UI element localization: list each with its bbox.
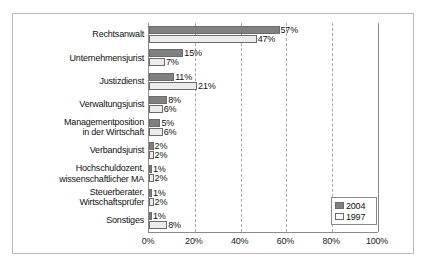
legend-entry-1997: 1997	[335, 211, 373, 222]
category-row: Justizdienst11%21%	[149, 69, 378, 92]
category-label: Managementpositionin der Wirtschaft	[64, 117, 144, 138]
legend-entry-2004: 2004	[335, 200, 373, 211]
bar-2004: 11%	[149, 73, 174, 81]
category-label: Unternehmensjurist	[70, 53, 144, 64]
category-row: Hochschuldozent,wissenschaftlicher MA1%2…	[149, 162, 378, 185]
bar-value-label: 2%	[155, 150, 168, 160]
category-label: Steuerberater,Wirtschaftsprüfer	[79, 187, 144, 208]
bar-1997: 21%	[149, 82, 197, 90]
category-label: Hochschuldozent,wissenschaftlicher MA	[59, 163, 144, 184]
category-label-line: Wirtschaftsprüfer	[79, 197, 144, 208]
bar-value-label: 57%	[281, 25, 298, 35]
category-label-line: in der Wirtschaft	[64, 127, 144, 138]
bar-value-label: 11%	[175, 72, 192, 82]
bar-value-label: 15%	[184, 48, 201, 58]
category-label-line: Justizdienst	[99, 76, 144, 87]
category-row: Unternehmensjurist15%7%	[149, 46, 378, 69]
bar-2004: 2%	[149, 142, 154, 150]
chart-legend: 2004 1997	[331, 197, 377, 225]
legend-swatch-1997	[335, 213, 344, 220]
bar-1997: 6%	[149, 105, 163, 113]
bar-1997: 7%	[149, 58, 165, 66]
bar-2004: 8%	[149, 96, 167, 104]
category-label-line: Verwaltungsjurist	[79, 99, 144, 110]
bar-value-label: 7%	[166, 57, 179, 67]
category-label-line: Rechtsanwalt	[92, 29, 144, 40]
category-label-line: Steuerberater,	[79, 187, 144, 198]
tick-label-40pct: 40%	[231, 236, 248, 246]
tick-label-60pct: 60%	[277, 236, 294, 246]
category-label: Verwaltungsjurist	[79, 99, 144, 110]
tick-label-100pct: 100%	[366, 236, 388, 246]
bar-1997: 47%	[149, 35, 257, 43]
bar-2004: 15%	[149, 49, 183, 57]
bar-2004: 1%	[149, 212, 152, 220]
bar-1997: 6%	[149, 128, 163, 136]
category-row: Managementpositionin der Wirtschaft5%6%	[149, 116, 378, 139]
legend-swatch-2004	[335, 202, 344, 209]
bar-value-label: 8%	[168, 220, 181, 230]
bar-2004: 57%	[149, 26, 280, 34]
category-row: Verbandsjurist2%2%	[149, 139, 378, 162]
category-label-line: Hochschuldozent,	[59, 163, 144, 174]
bar-1997: 2%	[149, 174, 154, 182]
legend-label-1997: 1997	[346, 212, 365, 222]
bar-1997: 2%	[149, 198, 154, 206]
category-label: Verbandsjurist	[90, 145, 144, 156]
category-label-line: Unternehmensjurist	[70, 53, 144, 64]
chart-frame: Rechtsanwalt57%47%Unternehmensjurist15%7…	[12, 13, 414, 254]
category-row: Rechtsanwalt57%47%	[149, 23, 378, 46]
bar-1997: 2%	[149, 151, 154, 159]
gridline-100pct	[378, 23, 379, 232]
bar-2004: 1%	[149, 165, 152, 173]
bar-value-label: 6%	[164, 127, 177, 137]
category-row: Verwaltungsjurist8%6%	[149, 93, 378, 116]
bar-value-label: 2%	[155, 197, 168, 207]
category-label: Rechtsanwalt	[92, 29, 144, 40]
tick-label-20pct: 20%	[185, 236, 202, 246]
bar-1997: 8%	[149, 221, 167, 229]
bar-value-label: 2%	[155, 173, 168, 183]
category-label-line: Verbandsjurist	[90, 145, 144, 156]
category-label-line: wissenschaftlicher MA	[59, 174, 144, 185]
category-label-line: Managementposition	[64, 117, 144, 128]
bar-2004: 1%	[149, 189, 152, 197]
category-label: Justizdienst	[99, 76, 144, 87]
bar-value-label: 47%	[258, 34, 275, 44]
category-label-line: Sonstiges	[106, 215, 144, 226]
bar-value-label: 6%	[164, 104, 177, 114]
tick-label-0pct: 0%	[142, 236, 155, 246]
tick-label-80pct: 80%	[322, 236, 339, 246]
bar-2004: 5%	[149, 119, 160, 127]
bar-value-label: 1%	[153, 211, 166, 221]
category-label: Sonstiges	[106, 215, 144, 226]
legend-label-2004: 2004	[346, 201, 365, 211]
bar-value-label: 21%	[198, 81, 215, 91]
